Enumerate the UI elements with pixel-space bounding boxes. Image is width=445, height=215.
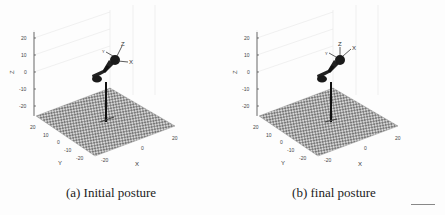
frame-z-label: Z (338, 41, 342, 47)
z-tick: 20 (244, 35, 250, 41)
y-tick: 20 (30, 124, 36, 130)
frame-x-label: X (129, 59, 133, 65)
x-tick: -20 (324, 157, 331, 163)
y-tick: 10 (43, 132, 49, 138)
z-tick: -20 (242, 103, 249, 109)
y-tick: 0 (57, 139, 60, 145)
z-tick: 0 (24, 69, 27, 75)
y-tick: 20 (253, 124, 259, 130)
panel-initial-posture: 20 10 0 -10 -20 Z 20 10 0 -10 -20 Y -20 … (0, 0, 222, 215)
caption-initial-posture: (a) Initial posture (0, 185, 222, 201)
y-tick: -10 (64, 147, 71, 153)
z-tick: 20 (21, 35, 27, 41)
y-tick: -20 (76, 155, 83, 161)
z-axis-label: Z (232, 70, 238, 74)
y-axis-label: Y (58, 160, 62, 166)
underline-mark (411, 204, 435, 205)
caption-final-posture: (b) final posture (223, 185, 445, 201)
y-axis-label: Y (281, 160, 285, 166)
y-tick: -10 (287, 147, 294, 153)
plot-3d-initial: 20 10 0 -10 -20 Z 20 10 0 -10 -20 Y -20 … (0, 0, 222, 185)
z-tick: 10 (244, 52, 250, 58)
frame-x-label: X (352, 45, 356, 51)
z-tick: 0 (247, 69, 250, 75)
z-tick: -20 (19, 103, 26, 109)
x-axis-label: X (135, 161, 139, 167)
x-tick: 20 (395, 135, 401, 141)
frame-z-label: Z (121, 41, 125, 47)
frame-y-label: Y (325, 51, 328, 56)
plot-3d-final: 20 10 0 -10 -20 Z 20 10 0 -10 -20 Y -20 … (223, 0, 445, 185)
y-tick: 0 (280, 139, 283, 145)
x-tick: -20 (101, 157, 108, 163)
x-tick: 0 (141, 145, 144, 151)
x-tick: 0 (364, 145, 367, 151)
frame-y-label: Y (102, 49, 105, 54)
z-tick: -10 (242, 86, 249, 92)
x-axis-label: X (358, 161, 362, 167)
checkered-floor (259, 88, 398, 156)
y-tick: -20 (299, 155, 306, 161)
y-tick: 10 (266, 132, 272, 138)
panel-final-posture: 20 10 0 -10 -20 Z 20 10 0 -10 -20 Y -20 … (223, 0, 445, 215)
z-axis-label: Z (9, 70, 15, 74)
z-tick: -10 (19, 86, 26, 92)
z-tick: 10 (21, 52, 27, 58)
x-tick: 20 (172, 135, 178, 141)
